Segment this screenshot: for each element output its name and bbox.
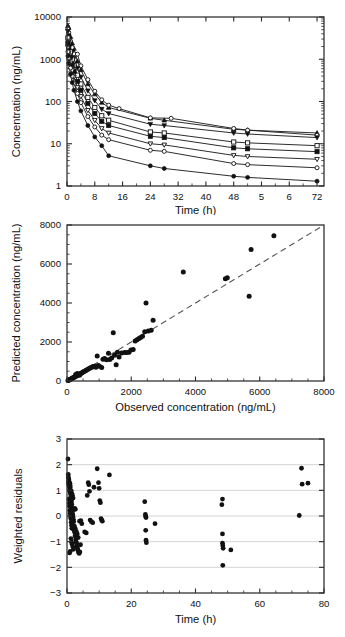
marker-open-circle <box>86 115 90 119</box>
scatter-point <box>131 347 136 352</box>
marker-open-square <box>107 118 111 122</box>
marker-open-circle <box>86 78 90 82</box>
marker-open-circle <box>148 148 152 152</box>
marker-filled-square <box>100 119 104 123</box>
marker-filled-circle <box>148 164 152 168</box>
marker-open-circle <box>162 149 166 153</box>
pharmacokinetic-figure: 0816243240485672110100100010000 Time (h)… <box>0 0 345 637</box>
marker-filled-square <box>107 123 111 127</box>
marker-open-square <box>100 114 104 118</box>
scatter-point <box>249 247 254 252</box>
marker-open-triangle-down <box>99 127 104 131</box>
residual-point <box>71 496 76 501</box>
panel-predicted-vs-observed: 0200040006000800002000400060008000 Obser… <box>0 215 345 425</box>
x-tick-label: 6000 <box>249 386 270 397</box>
y-tick-label: −3 <box>50 587 61 598</box>
panel-b-y-axis-label: Predicted concentration (ng/mL) <box>10 223 22 382</box>
y-tick-label: 4000 <box>40 297 61 308</box>
marker-open-triangle-down <box>315 157 320 161</box>
residual-point <box>87 489 92 494</box>
x-tick-label: 8 <box>92 191 97 202</box>
y-tick-label: 6000 <box>40 258 61 269</box>
marker-open-triangle-down <box>148 142 153 146</box>
marker-filled-circle <box>246 175 250 179</box>
residual-point <box>228 547 233 552</box>
scatter-point <box>144 301 149 306</box>
marker-filled-square <box>86 101 90 105</box>
marker-filled-circle <box>107 154 111 158</box>
marker-open-circle <box>68 66 72 70</box>
residual-point <box>68 483 73 488</box>
residual-point <box>300 482 305 487</box>
marker-open-circle <box>75 52 79 56</box>
marker-open-circle <box>117 107 121 111</box>
residual-point <box>220 532 225 537</box>
panel-c-svg: 020406080−3−2−10123 Time (h) Weighted re… <box>0 425 345 637</box>
x-tick-label: 20 <box>126 598 137 609</box>
marker-open-square <box>315 144 319 148</box>
panel-c-x-axis-label: Time (h) <box>175 613 217 625</box>
x-tick-label: 0 <box>64 386 69 397</box>
scatter-point <box>115 350 120 355</box>
marker-filled-circle <box>72 88 76 92</box>
y-tick-label: 0 <box>56 510 61 521</box>
y-tick-label: 0 <box>56 375 61 386</box>
panel-a-tick-labels: 0816243240485672110100100010000 <box>34 11 322 202</box>
marker-open-square <box>232 140 236 144</box>
panel-a-x-axis-label: Time (h) <box>175 204 217 215</box>
residual-point <box>85 493 90 498</box>
x-tick-label: 2000 <box>121 386 142 397</box>
marker-open-circle <box>169 116 173 120</box>
x-tick-label: 16 <box>117 191 128 202</box>
residual-point <box>90 520 95 525</box>
residual-point <box>220 563 225 568</box>
residual-point <box>221 546 226 551</box>
marker-open-circle <box>315 166 319 170</box>
scatter-point <box>140 334 145 339</box>
marker-open-circle <box>93 125 97 129</box>
marker-filled-square <box>245 147 249 151</box>
residual-point <box>95 466 100 471</box>
y-tick-label: 1 <box>56 180 61 191</box>
marker-filled-square <box>79 88 83 92</box>
panel-b-points <box>65 233 276 383</box>
scatter-point <box>149 328 154 333</box>
marker-filled-circle <box>162 166 166 170</box>
marker-filled-square <box>162 135 166 139</box>
marker-filled-square <box>148 134 152 138</box>
panel-b-svg: 0200040006000800002000400060008000 Obser… <box>0 215 345 425</box>
x-tick-label: 80 <box>319 598 330 609</box>
marker-open-circle <box>107 103 111 107</box>
scatter-point <box>99 365 104 370</box>
residual-point <box>76 535 81 540</box>
residual-point <box>97 486 102 491</box>
x-tick-label: 8000 <box>313 386 334 397</box>
panel-a-curves <box>68 26 317 181</box>
marker-filled-square <box>232 146 236 150</box>
marker-filled-circle <box>75 100 79 104</box>
marker-open-square <box>162 131 166 135</box>
scatter-point <box>111 330 116 335</box>
residual-point <box>306 481 311 486</box>
marker-open-circle <box>75 91 79 95</box>
panel-a-markers <box>66 23 320 183</box>
y-tick-label: −2 <box>50 562 61 573</box>
panel-b-x-axis-label: Observed concentration (ng/mL) <box>115 401 276 413</box>
scatter-point <box>114 362 119 367</box>
residual-point <box>297 513 302 518</box>
scatter-point <box>271 233 276 238</box>
marker-open-circle <box>107 138 111 142</box>
scatter-point <box>247 294 252 299</box>
x-tick-label: 0 <box>64 598 69 609</box>
scatter-point <box>181 270 186 275</box>
residual-point <box>220 497 225 502</box>
y-tick-label: 100 <box>45 96 61 107</box>
panel-a-svg: 0816243240485672110100100010000 Time (h)… <box>0 0 345 215</box>
model-fit-curve <box>68 47 317 159</box>
y-tick-label: −1 <box>50 536 61 547</box>
scatter-point <box>151 318 156 323</box>
residual-point <box>299 466 304 471</box>
residual-point <box>143 528 148 533</box>
panel-weighted-residuals: 020406080−3−2−10123 Time (h) Weighted re… <box>0 425 345 637</box>
residual-point <box>79 521 84 526</box>
